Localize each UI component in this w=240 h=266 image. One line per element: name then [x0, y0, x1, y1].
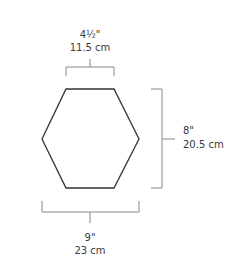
- top-dimension-bracket: [66, 59, 114, 76]
- right-dimension-metric: 20.5 cm: [183, 139, 224, 151]
- diagram-canvas: [0, 0, 240, 266]
- right-dimension-bracket: [151, 89, 175, 188]
- bottom-dimension-bracket: [42, 201, 139, 223]
- top-dimension-metric: 11.5 cm: [70, 42, 111, 54]
- bottom-dimension-metric: 23 cm: [74, 245, 105, 257]
- hexagon-dimension-diagram: 4½" 11.5 cm 8" 20.5 cm 9" 23 cm: [0, 0, 240, 266]
- hexagon-shape: [42, 89, 139, 188]
- top-dimension-imperial: 4½": [80, 29, 101, 41]
- bottom-dimension-imperial: 9": [85, 232, 96, 244]
- right-dimension-imperial: 8": [183, 125, 194, 137]
